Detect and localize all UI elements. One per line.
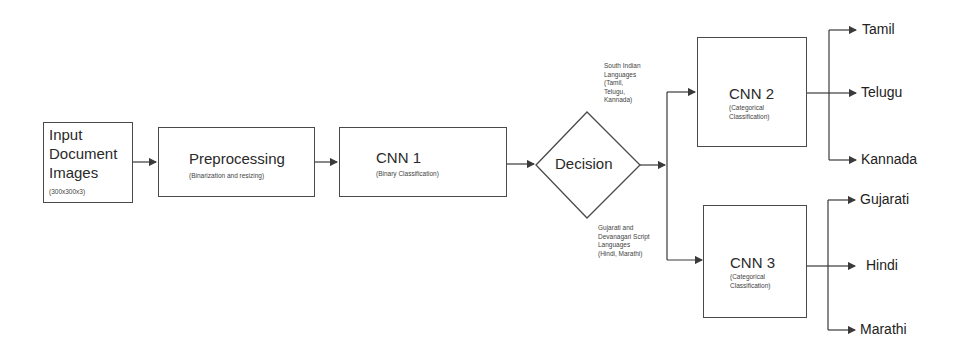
decision-label: Decision bbox=[555, 155, 613, 172]
branch-label-south-4: Telugu, bbox=[604, 88, 625, 97]
branch-label-south-5: Kannada) bbox=[604, 96, 632, 105]
input-subtitle: (300x300x3) bbox=[49, 188, 85, 197]
cnn3-node: CNN 3 (Categorical Classification) bbox=[703, 205, 807, 318]
branch-label-north-3: Languages bbox=[598, 241, 630, 250]
cnn2-subtitle-line-1: (Categorical bbox=[729, 104, 764, 113]
cnn1-node: CNN 1 (Binary Classification) bbox=[339, 127, 507, 197]
preprocessing-subtitle: (Binarization and resizing) bbox=[189, 172, 264, 181]
cnn3-title: CNN 3 bbox=[730, 254, 775, 271]
cnn2-subtitle-line-2: Classification) bbox=[729, 113, 769, 122]
preprocessing-node: Preprocessing (Binarization and resizing… bbox=[158, 127, 315, 197]
cnn1-subtitle: (Binary Classification) bbox=[376, 170, 439, 179]
output-marathi: Marathi bbox=[860, 321, 907, 337]
cnn2-title: CNN 2 bbox=[729, 85, 774, 102]
preprocessing-title: Preprocessing bbox=[189, 150, 285, 167]
branch-label-north-2: Devanagari Script bbox=[598, 233, 650, 242]
branch-label-south-2: Languages bbox=[604, 71, 636, 80]
cnn1-title: CNN 1 bbox=[376, 149, 421, 166]
cnn3-subtitle-line-1: (Categorical bbox=[730, 273, 765, 282]
branch-label-north-4: (Hindi, Marathi) bbox=[598, 250, 642, 259]
output-tamil: Tamil bbox=[862, 21, 895, 37]
input-title-line-1: Input bbox=[49, 125, 82, 144]
input-title-line-3: Images bbox=[49, 163, 98, 182]
output-hindi: Hindi bbox=[866, 257, 898, 273]
output-gujarati: Gujarati bbox=[860, 191, 909, 207]
cnn3-subtitle-line-2: Classification) bbox=[730, 282, 770, 291]
output-telugu: Telugu bbox=[861, 84, 902, 100]
cnn2-node: CNN 2 (Categorical Classification) bbox=[697, 37, 807, 147]
branch-label-south-1: South Indian bbox=[604, 62, 641, 71]
input-title-line-2: Document bbox=[49, 144, 117, 163]
branch-label-north-1: Gujarati and bbox=[598, 224, 633, 233]
branch-label-south-3: (Tamil, bbox=[604, 79, 623, 88]
input-node: Input Document Images (300x300x3) bbox=[43, 122, 133, 203]
output-kannada: Kannada bbox=[861, 151, 917, 167]
